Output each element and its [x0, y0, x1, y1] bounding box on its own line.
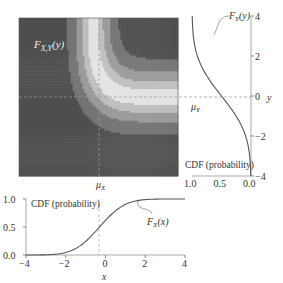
- fy-label: FY(y): [228, 10, 251, 23]
- svg-text:−2: −2: [255, 131, 266, 142]
- svg-text:−4: −4: [255, 171, 266, 182]
- fy-leader-line: [214, 16, 229, 35]
- svg-text:1.0: 1.0: [3, 194, 16, 205]
- svg-text:−4: −4: [19, 258, 30, 269]
- mu-y-label: μY: [190, 101, 201, 114]
- svg-text:1.0: 1.0: [184, 178, 197, 189]
- svg-text:4: 4: [182, 258, 187, 269]
- svg-text:0.0: 0.0: [243, 178, 256, 189]
- svg-text:0: 0: [103, 258, 108, 269]
- figure: FX,Y(y) μX −4−2024 1.00.50.0 FY(y) μY y …: [0, 0, 283, 283]
- svg-text:2: 2: [255, 51, 260, 62]
- y-axis-label: y: [266, 92, 272, 103]
- mu-x-label: μX: [95, 179, 106, 192]
- x-axis-label: x: [101, 271, 107, 282]
- fx-label: FX(x): [146, 216, 169, 229]
- fx-leader-line: [138, 201, 152, 214]
- svg-text:0.5: 0.5: [214, 178, 227, 189]
- svg-text:4: 4: [255, 11, 260, 22]
- fx-panel: 0.00.51.0 −4−2024 FX(x) CDF (probability…: [3, 194, 187, 282]
- cdf-right-label: CDF (probability): [185, 160, 254, 171]
- svg-text:2: 2: [142, 258, 147, 269]
- svg-text:0: 0: [255, 91, 260, 102]
- fy-panel: −4−2024 1.00.50.0 FY(y) μY y CDF (probab…: [184, 10, 272, 189]
- fy-curve: [192, 16, 251, 176]
- svg-text:0.0: 0.0: [3, 250, 16, 261]
- svg-text:0.5: 0.5: [3, 222, 16, 233]
- svg-text:−2: −2: [59, 258, 70, 269]
- cdf-bottom-label: CDF (probability): [31, 199, 100, 210]
